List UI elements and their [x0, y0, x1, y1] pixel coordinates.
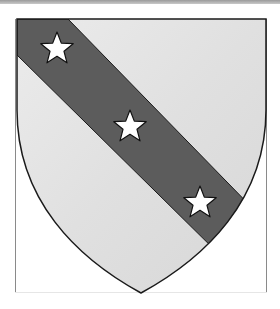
coat-of-arms — [0, 0, 280, 309]
